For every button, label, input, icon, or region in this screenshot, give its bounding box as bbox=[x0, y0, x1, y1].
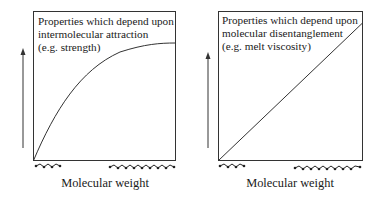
title-line-1: Properties which depend upon bbox=[38, 15, 174, 28]
up-arrow-icon bbox=[206, 52, 211, 59]
short-chain-icon bbox=[219, 164, 246, 168]
panel-left-example: (e.g. strength) bbox=[38, 41, 100, 53]
title-line-1: Properties which depend upon bbox=[222, 14, 358, 27]
panel-right-xlabel: Molecular weight bbox=[230, 176, 350, 191]
title-line-2: molecular disentanglement bbox=[222, 27, 358, 40]
short-chain-icon bbox=[35, 164, 62, 168]
panel-right-example: (e.g. melt viscosity) bbox=[222, 40, 311, 52]
panel-right-title: Properties which depend upon molecular d… bbox=[222, 14, 358, 40]
up-arrow-icon bbox=[21, 48, 26, 55]
panel-left-xlabel: Molecular weight bbox=[45, 176, 165, 191]
long-chain-icon bbox=[294, 166, 362, 171]
saturating-curve bbox=[34, 43, 176, 161]
panel-left-title: Properties which depend upon intermolecu… bbox=[38, 15, 174, 41]
title-line-2: intermolecular attraction bbox=[38, 28, 174, 41]
long-chain-icon bbox=[109, 165, 176, 169]
